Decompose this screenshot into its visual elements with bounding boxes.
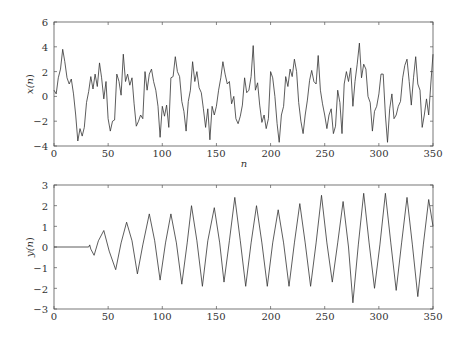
top-xlabel: n [241, 158, 247, 169]
top-xtick-300: 300 [369, 148, 388, 159]
bottom-xtick-200: 200 [261, 311, 280, 322]
bottom-xtick-50: 50 [102, 311, 115, 322]
bottom-ticks [54, 185, 433, 309]
top-xtick-100: 100 [152, 148, 171, 159]
bottom-xtick-0: 0 [51, 311, 57, 322]
bottom-xtick-350: 350 [423, 311, 442, 322]
top-xtick-250: 250 [315, 148, 334, 159]
bottom-plot-frame [54, 185, 433, 309]
bottom-ytick-0: 0 [42, 242, 48, 253]
top-ytick-neg2: −2 [33, 116, 48, 127]
top-ytick-4: 4 [42, 42, 48, 53]
top-xtick-50: 50 [102, 148, 115, 159]
top-ylabel: x(n) [24, 74, 35, 94]
bottom-ytick-neg2: −2 [33, 284, 48, 295]
top-ytick-6: 6 [42, 17, 48, 28]
top-signal-line [54, 43, 433, 142]
figure: 6 4 2 0 −2 −4 0 50 100 150 200 250 300 3… [0, 0, 462, 344]
bottom-ytick-1: 1 [42, 222, 48, 233]
bottom-ytick-2: 2 [42, 201, 48, 212]
top-ytick-0: 0 [42, 91, 48, 102]
top-xtick-200: 200 [261, 148, 280, 159]
top-xtick-350: 350 [423, 148, 442, 159]
top-xtick-150: 150 [206, 148, 225, 159]
bottom-xtick-300: 300 [369, 311, 388, 322]
bottom-chart: 3 2 1 0 −1 −2 −3 0 50 100 150 200 250 30… [24, 180, 443, 322]
bottom-ytick-neg3: −3 [33, 304, 48, 315]
top-xtick-0: 0 [51, 148, 57, 159]
bottom-xtick-100: 100 [152, 311, 171, 322]
top-chart: 6 4 2 0 −2 −4 0 50 100 150 200 250 300 3… [24, 17, 443, 169]
top-ytick-2: 2 [42, 67, 48, 78]
bottom-xtick-250: 250 [315, 311, 334, 322]
bottom-xtick-150: 150 [206, 311, 225, 322]
bottom-ylabel-close: ) [24, 237, 35, 241]
bottom-ylabel: y(n) [24, 237, 35, 258]
bottom-signal-line [54, 193, 433, 302]
top-ylabel-close: ) [24, 74, 35, 78]
bottom-ytick-neg1: −1 [33, 263, 48, 274]
top-ytick-neg4: −4 [33, 141, 48, 152]
bottom-ytick-3: 3 [42, 180, 48, 191]
